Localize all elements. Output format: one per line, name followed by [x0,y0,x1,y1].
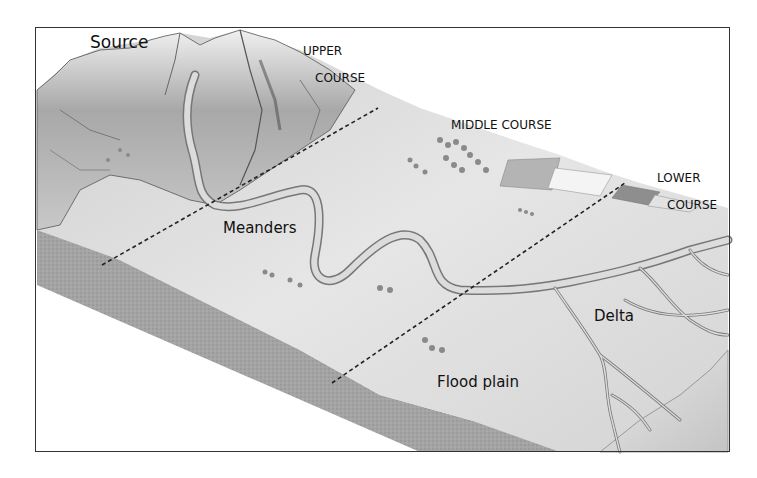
label-middle-course: MIDDLE COURSE [451,119,552,133]
label-flood-plain: Flood plain [437,374,519,391]
label-delta: Delta [594,308,634,325]
label-upper-course: UPPER COURSE [303,31,365,100]
label-lower-course-line2: COURSE [657,199,717,213]
diagram-frame [35,27,730,452]
label-meanders: Meanders [223,220,297,237]
label-lower-course-line1: LOWER [657,172,717,186]
label-source: Source [90,33,148,53]
label-upper-course-line2: COURSE [303,72,365,86]
label-lower-course: LOWER COURSE [657,158,717,227]
river-course-diagram: Source UPPER COURSE MIDDLE COURSE LOWER … [0,0,757,478]
label-upper-course-line1: UPPER [303,45,365,59]
